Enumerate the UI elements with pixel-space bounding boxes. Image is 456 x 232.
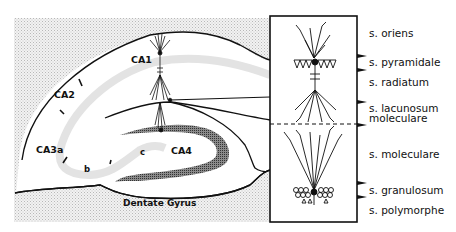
diagram-canvas: CA1 CA2 CA3a b c CA4 Dentate Gyrus [0, 0, 456, 232]
label-ca4: CA4 [171, 145, 192, 156]
label-ca3c: c [140, 147, 145, 157]
stratum-boundary-ticks [357, 54, 367, 199]
stratum-label-oriens: s. oriens [369, 27, 413, 39]
label-ca3a: CA3a [36, 144, 63, 155]
stratum-label-granulosum: s. granulosum [369, 184, 444, 196]
stratum-label-lacunosum-moleculare: moleculare [369, 112, 427, 124]
label-ca1: CA1 [131, 54, 152, 65]
stratum-label-moleculare: s. moleculare [369, 148, 440, 160]
hippocampus-diagram: CA1 CA2 CA3a b c CA4 Dentate Gyrus [0, 0, 456, 232]
stratum-label-polymorphe: s. polymorphe [369, 204, 444, 216]
stratum-label-pyramidale: s. pyramidale [369, 56, 440, 68]
label-ca3b: b [84, 164, 90, 174]
label-ca2: CA2 [54, 89, 75, 100]
label-dentate-gyrus: Dentate Gyrus [123, 198, 196, 208]
stratum-label-radiatum: s. radiatum [369, 76, 429, 88]
